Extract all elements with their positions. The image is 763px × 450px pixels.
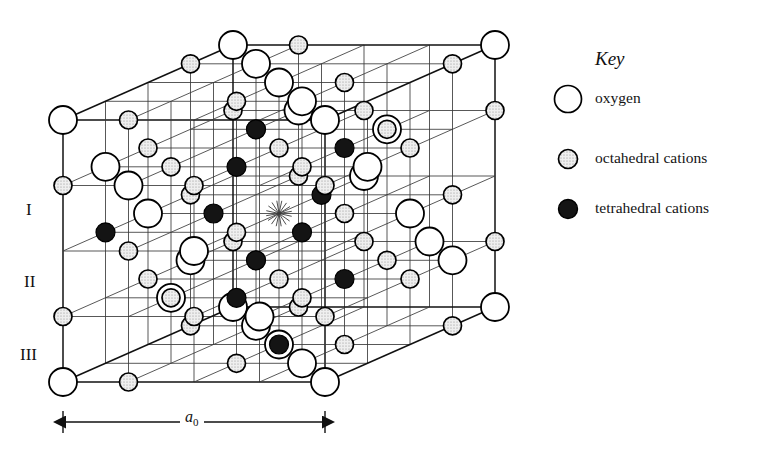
oxygen-atom (288, 349, 316, 377)
oxygen-atom (311, 106, 339, 134)
legend-label-tetrahedral: tetrahedral cations (595, 199, 709, 217)
legend: Key oxygen octahedral cations tetrahedra… (545, 30, 760, 230)
oxygen-atom (180, 237, 208, 265)
oxygen-atom (481, 293, 509, 321)
oxygen-atom (49, 106, 77, 134)
oxygen-atom (134, 200, 162, 228)
oxygen-atom (246, 303, 274, 331)
octahedral-cation (139, 139, 157, 157)
octahedral-cation (293, 158, 311, 176)
tetrahedral-cation (247, 251, 266, 270)
figure-root: I II III a0 Key oxygen octahedral cation… (0, 0, 763, 450)
octahedral-cation (54, 308, 72, 326)
oxygen-atom (265, 69, 293, 97)
octahedral-cation (486, 102, 504, 120)
octahedral-cation (293, 289, 311, 307)
tetrahedral-cation (270, 335, 289, 354)
lattice-parameter-symbol: a (185, 408, 193, 425)
legend-label-oxygen: oxygen (595, 89, 641, 107)
oxygen-atom (396, 200, 424, 228)
legend-item-octahedral: octahedral cations (545, 142, 760, 176)
octahedral-cation (162, 289, 180, 307)
octahedral-cation (54, 177, 72, 195)
legend-title: Key (595, 48, 625, 70)
octahedral-cation (401, 270, 419, 288)
octahedral-cation (401, 139, 419, 157)
tetrahedral-cation (293, 223, 312, 242)
tetrahedral-cation (247, 120, 266, 139)
octahedral-cation (185, 308, 203, 326)
oxygen-atom (481, 31, 509, 59)
octahedral-cation (336, 336, 354, 354)
octahedral-cation (355, 233, 373, 251)
octahedral-cation (228, 223, 246, 241)
tetrahedral-cation-icon (551, 192, 585, 226)
octahedral-cation (444, 317, 462, 335)
octahedral-cation (270, 270, 288, 288)
octahedral-cation (486, 233, 504, 251)
octahedral-cation (139, 270, 157, 288)
legend-label-octahedral: octahedral cations (595, 149, 707, 167)
octahedral-cation (355, 102, 373, 120)
oxygen-atom (439, 246, 467, 274)
tetrahedral-cation (335, 270, 354, 289)
layer-label-II: II (24, 272, 35, 292)
octahedral-cation (120, 242, 138, 260)
octahedral-cation (378, 251, 396, 269)
octahedral-cation (185, 177, 203, 195)
oxygen-atom (354, 153, 382, 181)
layer-label-I: I (26, 200, 32, 220)
oxygen-atom (49, 368, 77, 396)
octahedral-cation (162, 158, 180, 176)
octahedral-cation (316, 308, 334, 326)
octahedral-cation (336, 205, 354, 223)
octahedral-cation-icon (551, 142, 585, 176)
octahedral-cation (336, 74, 354, 92)
oxygen-atom (311, 368, 339, 396)
oxygen-icon (551, 82, 585, 116)
legend-item-tetrahedral: tetrahedral cations (545, 192, 760, 226)
octahedral-cation (290, 36, 308, 54)
lattice-parameter-label: a0 (180, 408, 204, 428)
octahedral-cation (228, 354, 246, 372)
oxygen-atom (219, 31, 247, 59)
oxygen-atom (242, 50, 270, 78)
lattice-parameter-subscript: 0 (193, 416, 199, 428)
octahedral-cation (120, 373, 138, 391)
octahedral-cation (270, 139, 288, 157)
oxygen-atom (416, 228, 444, 256)
legend-item-oxygen: oxygen (545, 82, 760, 116)
octahedral-cation (182, 55, 200, 73)
octahedral-cation (120, 111, 138, 129)
octahedral-cation (316, 177, 334, 195)
layer-label-III: III (20, 345, 37, 365)
octahedral-cation (444, 186, 462, 204)
tetrahedral-cation (96, 223, 115, 242)
oxygen-atom (288, 87, 316, 115)
tetrahedral-cation (204, 204, 223, 223)
octahedral-cation (228, 92, 246, 110)
tetrahedral-cation (335, 139, 354, 158)
octahedral-cation (444, 55, 462, 73)
oxygen-atom (92, 153, 120, 181)
tetrahedral-cation (227, 157, 246, 176)
octahedral-cation (378, 120, 396, 138)
oxygen-atom (115, 172, 143, 200)
tetrahedral-cation (227, 288, 246, 307)
